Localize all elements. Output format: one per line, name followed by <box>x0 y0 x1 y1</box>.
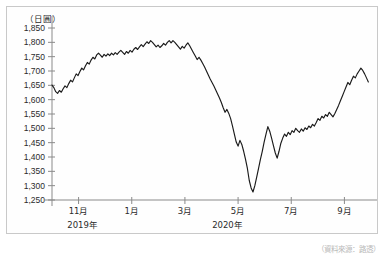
line-chart-svg: （日圓） 1,2501,3001,3501,4001,4501,5001,550… <box>0 0 386 255</box>
x-axis-tick-label: 1月 <box>125 206 139 216</box>
y-axis-tick-label: 1,600 <box>24 95 46 105</box>
y-axis-tick-label: 1,500 <box>24 123 46 133</box>
x-axis-tick-label: 5月 <box>231 206 245 216</box>
x-axis-tick-label: 7月 <box>284 206 298 216</box>
price-line-series <box>52 41 368 192</box>
y-axis-tick-label: 1,350 <box>24 166 46 176</box>
y-axis-tick-label: 1,250 <box>24 195 46 205</box>
y-axis-tick-label: 1,850 <box>24 23 46 33</box>
y-axis: 1,2501,3001,3501,4001,4501,5001,5501,600… <box>24 23 55 205</box>
y-axis-tick-label: 1,300 <box>24 181 46 191</box>
x-axis-tick-label: 3月 <box>178 206 192 216</box>
x-axis-year-label: 2019年 <box>67 220 98 230</box>
y-axis-tick-label: 1,450 <box>24 138 46 148</box>
source-note: （資料來源：路透） <box>317 244 380 254</box>
x-axis-tick-label: 11月 <box>69 206 89 216</box>
y-axis-tick-label: 1,800 <box>24 37 46 47</box>
year-labels: 2019年2020年 <box>67 220 243 230</box>
y-axis-tick-label: 1,650 <box>24 80 46 90</box>
y-axis-tick-label: 1,700 <box>24 66 46 76</box>
y-axis-tick-label: 1,750 <box>24 52 46 62</box>
chart-figure: （日圓） 1,2501,3001,3501,4001,4501,5001,550… <box>0 0 386 255</box>
y-axis-tick-label: 1,400 <box>24 152 46 162</box>
x-axis-tick-label: 9月 <box>337 206 351 216</box>
y-axis-tick-label: 1,550 <box>24 109 46 119</box>
x-axis-year-label: 2020年 <box>212 220 243 230</box>
